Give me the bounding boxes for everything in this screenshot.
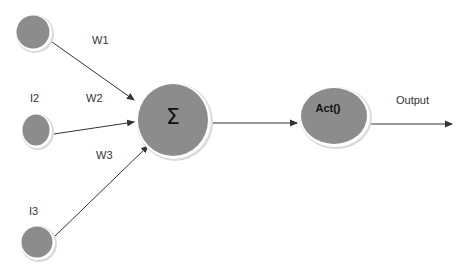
input-node-1 — [16, 15, 54, 53]
weight-label-w3: W3 — [96, 149, 113, 161]
summation-symbol: Σ — [166, 104, 180, 129]
neuron-diagram — [0, 0, 463, 278]
input-node-2 — [22, 114, 54, 150]
output-label: Output — [396, 94, 429, 106]
activation-label: Act() — [315, 102, 340, 114]
edge-input2-to-sum — [54, 122, 134, 134]
input-label-i2: I2 — [30, 92, 39, 104]
weight-label-w1: W1 — [92, 34, 109, 46]
weight-label-w2: W2 — [86, 92, 103, 104]
activation-node — [300, 87, 372, 149]
input-node-3 — [21, 226, 57, 262]
input-label-i3: I3 — [29, 205, 38, 217]
